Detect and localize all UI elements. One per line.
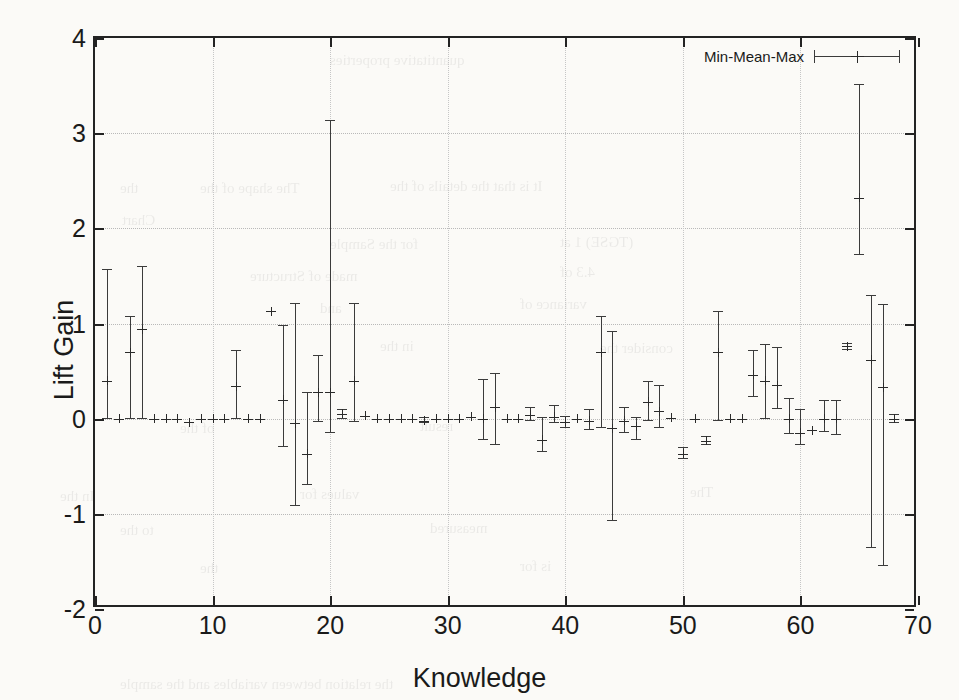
x-axis-tick [918,38,920,47]
x-axis-tick [565,596,567,605]
x-axis-tick [683,596,685,605]
y-axis-tick [95,419,104,421]
y-axis-tick [905,324,914,326]
x-axis-tick [683,38,685,47]
x-axis-tick [95,596,97,605]
y-axis-tick [905,228,914,230]
gridline-horizontal [95,228,914,229]
x-axis-tick-label: 40 [551,613,579,638]
y-axis-tick-label: -1 [64,501,86,526]
x-axis-tick-label: 30 [434,613,462,638]
x-axis-tick [330,596,332,605]
y-axis-tick-label: 3 [72,121,86,146]
x-axis-tick [448,596,450,605]
gridline-vertical [213,38,214,605]
x-axis-tick [800,38,802,47]
x-axis-tick [330,38,332,47]
y-axis-tick-label: 4 [72,26,86,51]
x-axis-tick-label: 10 [199,613,227,638]
y-axis-tick-label: 0 [72,406,86,431]
gridline-horizontal [95,324,914,325]
x-axis-tick-label: 20 [316,613,344,638]
y-axis-tick [95,514,104,516]
gridline-vertical [800,38,801,605]
gridline-vertical [565,38,566,605]
chart-figure: Lift Gain Knowledge -2-10123401020304050… [0,0,959,700]
gridline-vertical [448,38,449,605]
gridline-vertical [683,38,684,605]
legend-errorbar-icon [814,50,900,64]
y-axis-tick-label: 2 [72,216,86,241]
x-axis-title: Knowledge [413,663,547,694]
y-axis-tick [905,38,914,40]
y-axis-tick-label: 1 [72,311,86,336]
y-axis-tick [905,419,914,421]
y-axis-tick [95,228,104,230]
gridline-horizontal [95,514,914,515]
x-axis-tick-label: 0 [88,613,102,638]
gridline-horizontal [95,133,914,134]
y-axis-tick [95,324,104,326]
x-axis-tick [565,38,567,47]
y-axis-tick [905,133,914,135]
x-axis-tick-label: 70 [904,613,932,638]
plot-area: -2-101234010203040506070 Min-Mean-Max [93,36,916,607]
x-axis-tick-label: 50 [669,613,697,638]
x-axis-tick [800,596,802,605]
x-axis-tick [213,596,215,605]
x-axis-tick [95,38,97,47]
x-axis-tick [448,38,450,47]
x-axis-tick [918,596,920,605]
legend-label: Min-Mean-Max [704,48,804,65]
x-axis-tick [213,38,215,47]
y-axis-tick [95,133,104,135]
legend: Min-Mean-Max [704,48,900,65]
x-axis-tick-label: 60 [787,613,815,638]
y-axis-tick-label: -2 [64,597,86,622]
y-axis-tick [905,514,914,516]
